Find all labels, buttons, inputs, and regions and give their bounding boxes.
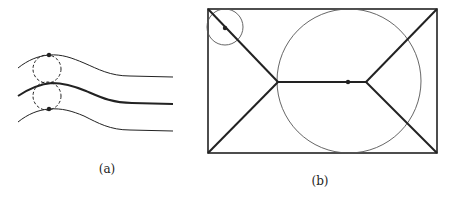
- top-streamline: [18, 55, 173, 77]
- caption-a: (a): [99, 162, 116, 176]
- figure-b: [207, 9, 437, 153]
- dashed-circle-upper: [33, 55, 61, 83]
- dot-large-center: [346, 80, 350, 84]
- dot-small-center: [223, 26, 227, 30]
- middle-streamline: [18, 83, 173, 104]
- caption-b: (b): [311, 174, 328, 188]
- figure-a: [18, 53, 173, 131]
- bottom-streamline: [18, 109, 173, 131]
- dot-bottom: [47, 107, 51, 111]
- diagram-canvas: [0, 0, 455, 198]
- dot-top: [47, 53, 51, 57]
